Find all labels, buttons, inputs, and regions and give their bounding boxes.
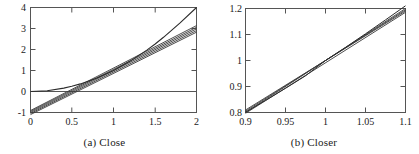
plot-b: 0.8 0.9 1 1.1 1.2 0.9 0.95 1 1.05 1.1 <box>209 0 419 154</box>
ytick-label-a-0: -1 <box>18 107 26 118</box>
xtick-label-a-2: 1 <box>111 116 116 127</box>
ytick-label-a-1: 0 <box>21 86 26 97</box>
panel-b: 0.8 0.9 1 1.1 1.2 0.9 0.95 1 1.05 1.1 (b… <box>209 0 419 154</box>
ytick-label-a-2: 1 <box>21 65 26 76</box>
ytick-label-b-2: 1 <box>237 55 242 66</box>
xtick-label-b-4: 1.1 <box>399 116 412 127</box>
ytick-label-a-5: 4 <box>21 2 26 13</box>
plot-a: -1 0 1 2 3 4 0 0.5 1 1.5 2 <box>0 0 209 154</box>
ytick-label-a-4: 3 <box>21 23 26 34</box>
ytick-label-a-3: 2 <box>21 44 26 55</box>
xtick-label-a-0: 0 <box>28 116 33 127</box>
ytick-label-b-4: 1.2 <box>230 3 243 14</box>
xtick-label-a-4: 2 <box>194 116 199 127</box>
caption-panel-a: (a) Close <box>0 136 209 148</box>
plot-frame-a <box>31 8 197 113</box>
xtick-label-a-1: 0.5 <box>66 116 79 127</box>
xtick-label-a-3: 1.5 <box>149 116 162 127</box>
xtick-label-b-0: 0.9 <box>239 116 252 127</box>
caption-panel-b: (b) Closer <box>209 136 419 148</box>
xtick-label-b-1: 0.95 <box>277 116 295 127</box>
panel-a: -1 0 1 2 3 4 0 0.5 1 1.5 2 (a) Close <box>0 0 209 154</box>
ytick-label-b-3: 1.1 <box>230 29 243 40</box>
xtick-label-b-3: 1.05 <box>357 116 375 127</box>
ytick-label-b-1: 0.9 <box>230 81 243 92</box>
xtick-label-b-2: 1 <box>323 116 328 127</box>
two-panel-figure: -1 0 1 2 3 4 0 0.5 1 1.5 2 (a) Close <box>0 0 419 154</box>
